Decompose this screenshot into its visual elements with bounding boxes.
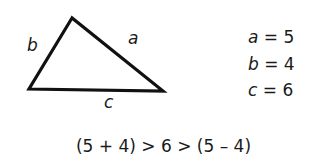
var-b: b: [248, 54, 259, 74]
value-b: b = 4: [248, 56, 295, 73]
side-label-b: b: [27, 37, 38, 54]
value-c: c = 6: [248, 82, 293, 99]
value-a-text: = 5: [258, 27, 294, 47]
triangle: [29, 18, 163, 91]
side-label-c: c: [104, 94, 113, 111]
value-b-text: = 4: [259, 54, 295, 74]
inequality-formula: (5 + 4) > 6 > (5 – 4): [0, 138, 317, 155]
var-c: c: [248, 80, 257, 100]
side-label-a: a: [128, 30, 138, 47]
var-a: a: [248, 27, 258, 47]
value-c-text: = 6: [257, 80, 293, 100]
value-a: a = 5: [248, 29, 294, 46]
